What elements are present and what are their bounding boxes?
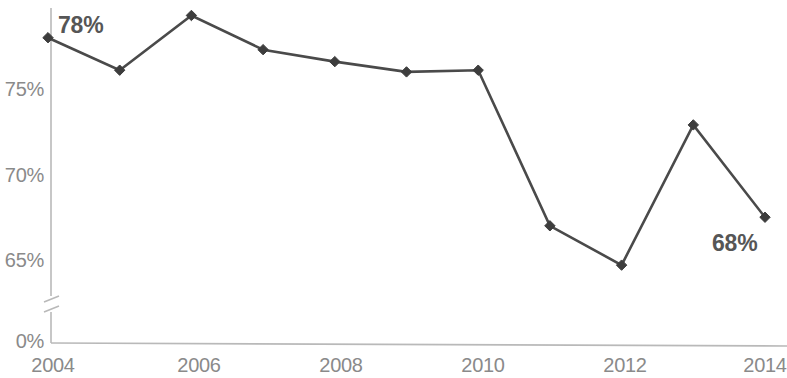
- x-tick-label-2010: 2010: [461, 354, 504, 376]
- data-point-marker: [401, 67, 411, 77]
- x-tick-label-2004: 2004: [31, 354, 74, 376]
- x-tick-label-2012: 2012: [603, 354, 646, 376]
- annotation-end-value: 68%: [712, 230, 757, 256]
- y-tick-label-70: 70%: [5, 164, 45, 186]
- x-axis-line: [51, 343, 787, 346]
- data-point-marker: [545, 221, 555, 231]
- data-point-marker: [616, 260, 626, 270]
- y-tick-label-65: 65%: [5, 249, 45, 271]
- x-tick-label-2014: 2014: [743, 354, 786, 376]
- chart-container: 75% 70% 65% 0% 2004 2006 2008 2010 2012 …: [0, 0, 787, 378]
- series-line: [48, 16, 765, 266]
- data-point-marker: [330, 56, 340, 66]
- data-point-marker: [258, 44, 268, 54]
- data-point-marker: [473, 65, 483, 75]
- annotation-start-value: 78%: [58, 12, 103, 38]
- y-tick-label-75: 75%: [5, 78, 45, 100]
- x-tick-label-2006: 2006: [177, 354, 220, 376]
- line-chart: 75% 70% 65% 0% 2004 2006 2008 2010 2012 …: [0, 0, 787, 378]
- y-tick-label-0: 0%: [16, 330, 45, 352]
- data-point-markers: [43, 10, 770, 270]
- x-tick-label-2008: 2008: [319, 354, 362, 376]
- axis-break-icon: [44, 296, 59, 312]
